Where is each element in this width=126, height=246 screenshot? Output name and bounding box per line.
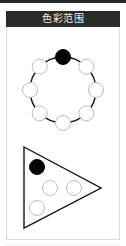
ring-dot-empty	[79, 59, 94, 74]
triangle-dot-filled	[30, 160, 45, 175]
triangle-dot-empty	[30, 201, 45, 216]
color-range-diagram	[0, 0, 126, 246]
ring-dot-empty	[79, 106, 94, 121]
ring-dot-empty	[89, 83, 104, 98]
ring-dot-empty	[32, 106, 47, 121]
ring-dot-empty	[56, 116, 71, 131]
bottom-divider	[6, 244, 120, 245]
ring-diagram	[23, 50, 104, 131]
triangle-dot-empty	[43, 181, 58, 196]
ring-dot-filled	[56, 50, 71, 65]
ring-dot-empty	[23, 83, 38, 98]
triangle-diagram	[24, 147, 101, 228]
triangle-dot-empty	[67, 181, 82, 196]
ring-dot-empty	[32, 59, 47, 74]
